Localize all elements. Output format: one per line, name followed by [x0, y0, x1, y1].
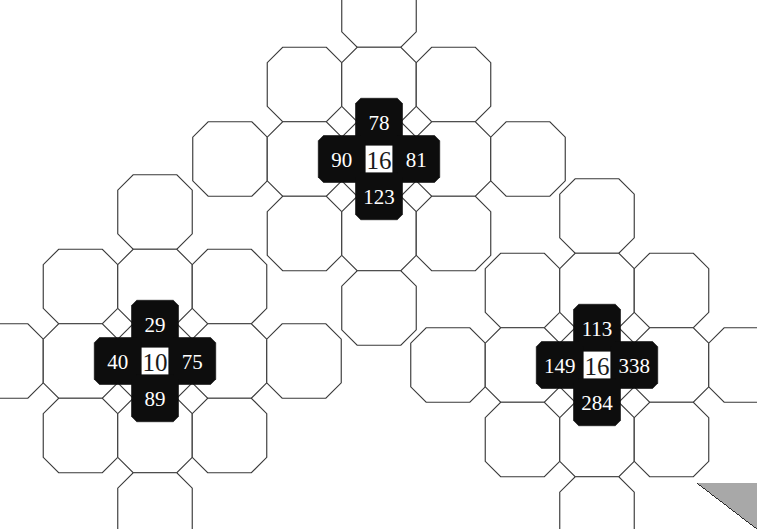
octagon-tile: [193, 122, 268, 197]
octagon-tile: [491, 122, 566, 197]
octagon-tile: [485, 253, 560, 328]
top-value: 113: [582, 317, 613, 341]
right-value: 75: [182, 350, 203, 374]
octagon-tile: [634, 253, 709, 328]
octagon-puzzle-bottom-left: 10 29 40 75 89: [0, 206, 310, 516]
octagon-tile: [43, 249, 118, 324]
octagon-tile: [192, 398, 267, 473]
scan-corner-artifact: [697, 483, 757, 529]
octagon-tile: [411, 328, 486, 403]
octagon-puzzle-bottom-right: 16 113 149 338 284: [442, 210, 752, 520]
figure-canvas: 16 78 90 81 123 10 29 40 75 89 16 113 14…: [0, 0, 757, 529]
octagon-tile: [709, 328, 757, 403]
bottom-value: 89: [145, 387, 166, 411]
center-value: 16: [367, 147, 392, 174]
octagon-tile: [0, 324, 43, 399]
octagon-tile: [267, 324, 342, 399]
left-value: 149: [544, 354, 576, 378]
octagon-tile: [267, 47, 342, 122]
octagon-tile: [118, 175, 193, 250]
left-value: 90: [331, 148, 352, 172]
octagon-tile: [118, 473, 193, 529]
left-value: 40: [107, 350, 128, 374]
bottom-value: 123: [363, 185, 395, 209]
top-value: 29: [145, 313, 166, 337]
bottom-value: 284: [581, 391, 613, 415]
octagon-tile: [485, 402, 560, 477]
top-value: 78: [369, 111, 390, 135]
octagon-tile: [342, 0, 417, 47]
right-value: 81: [406, 148, 427, 172]
octagon-tile: [43, 398, 118, 473]
octagon-tile: [560, 477, 635, 529]
octagon-tile: [416, 47, 491, 122]
right-value: 338: [619, 354, 651, 378]
puzzle-diagram-bottom-right: 16 113 149 338 284: [442, 210, 752, 520]
puzzle-diagram-bottom-left: 10 29 40 75 89: [0, 206, 310, 516]
center-value: 16: [585, 353, 610, 380]
octagon-tile: [560, 179, 635, 254]
octagon-tile: [634, 402, 709, 477]
center-value: 10: [143, 349, 168, 376]
octagon-tile: [192, 249, 267, 324]
octagon-tile: [342, 271, 417, 346]
